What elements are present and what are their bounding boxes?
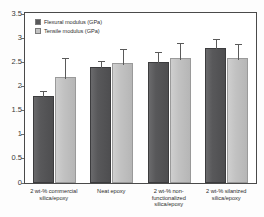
- x-axis-labels: 2 wt-% commercialsilica/epoxyNeat epoxy2…: [25, 186, 257, 217]
- bar-group: [198, 14, 256, 183]
- y-axis-tick-label: 2: [2, 82, 22, 90]
- y-axis-tick-label: 1: [2, 130, 22, 138]
- error-bar: [65, 59, 66, 79]
- bar: [55, 77, 76, 182]
- x-axis-category-label: 2 wt-% silanizedsilica/epoxy: [198, 188, 256, 201]
- bar: [227, 58, 248, 182]
- bar-chart: 00.511.522.533.5 Flexural modulus (GPa)T…: [0, 0, 264, 217]
- legend-swatch-icon: [35, 19, 41, 25]
- error-bar: [101, 62, 102, 69]
- error-bar-cap: [62, 58, 69, 59]
- legend-item: Flexural modulus (GPa): [35, 18, 102, 26]
- error-bar-cap: [177, 43, 184, 44]
- legend-label: Flexural modulus (GPa): [44, 19, 102, 25]
- legend-swatch-icon: [35, 28, 41, 34]
- y-axis-tick-label: 0: [2, 179, 22, 187]
- y-axis-tick-label: 3: [2, 34, 22, 42]
- legend-item: Tensile modulus (GPa): [35, 27, 102, 35]
- bar: [170, 58, 191, 182]
- x-axis-category-label: 2 wt-% commercialsilica/epoxy: [25, 188, 83, 201]
- x-axis-category-label: Neat epoxy: [83, 188, 141, 195]
- error-bar: [238, 45, 239, 60]
- error-bar: [43, 92, 44, 98]
- error-bar-cap: [213, 39, 220, 40]
- error-bar-cap: [235, 44, 242, 45]
- bar-group: [141, 14, 199, 183]
- error-bar-cap: [40, 91, 47, 92]
- error-bar-cap: [120, 49, 127, 50]
- y-axis-tick-label: 3.5: [2, 10, 22, 18]
- y-axis-tick-label: 2.5: [2, 58, 22, 66]
- chart-legend: Flexural modulus (GPa)Tensile modulus (G…: [31, 15, 106, 39]
- y-axis-tick-label: 1.5: [2, 106, 22, 114]
- bar: [112, 63, 133, 182]
- y-axis-tick-label: 0.5: [2, 154, 22, 162]
- error-bar-cap: [155, 52, 162, 53]
- error-bar: [180, 44, 181, 60]
- error-bar-cap: [98, 61, 105, 62]
- error-bar: [216, 40, 217, 50]
- bar: [148, 62, 169, 183]
- x-axis-category-label: 2 wt-% non-functionalizedsilica/epoxy: [140, 188, 198, 208]
- bar: [33, 96, 54, 183]
- error-bar: [158, 53, 159, 64]
- bar: [90, 67, 111, 183]
- error-bar: [123, 50, 124, 66]
- bar: [205, 48, 226, 182]
- legend-label: Tensile modulus (GPa): [44, 28, 100, 34]
